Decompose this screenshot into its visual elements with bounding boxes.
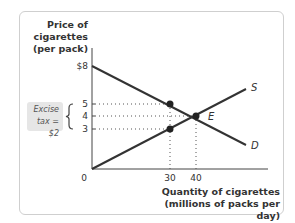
demand-label: D [251,140,259,151]
y-tick-4: 4 [82,111,88,121]
x-tick-40: 40 [190,173,202,183]
brace-icon [66,104,73,129]
x-axis-label-line: (millions of packs per day) [148,198,280,222]
point-30-3 [167,126,174,133]
origin-label: 0 [81,173,87,183]
supply-label: S [251,82,258,93]
x-axis-label-line: Quantity of cigarettes [148,186,280,198]
point-30-5 [167,101,174,108]
y-tick-8: $8 [77,61,89,71]
y-tick-3: 3 [82,124,88,134]
x-tick-30: 30 [164,173,176,183]
equilibrium-label: E [208,111,215,122]
y-tick-5: 5 [82,99,88,109]
equilibrium-point [193,113,200,120]
x-axis-label: Quantity of cigarettes (millions of pack… [148,186,280,222]
